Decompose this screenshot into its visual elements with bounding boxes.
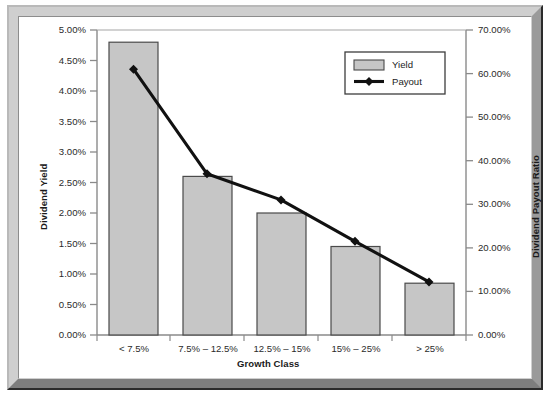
right-tick-label-2: 50.00% xyxy=(478,111,526,122)
right-tick-label-7: 0.00% xyxy=(478,329,526,340)
category-label-3: 15% – 25% xyxy=(319,343,393,354)
right-tick-label-0: 70.00% xyxy=(478,24,526,35)
bar-yield-3 xyxy=(331,247,380,336)
bar-yield-1 xyxy=(183,176,232,335)
category-label-1: 7.5% – 12.5% xyxy=(171,343,245,354)
left-tick-label-3: 3.50% xyxy=(40,116,86,127)
category-label-0: < 7.5% xyxy=(97,343,171,354)
left-tick-label-0: 5.00% xyxy=(40,24,86,35)
category-label-2: 12.5% – 15% xyxy=(245,343,319,354)
left-tick-label-7: 1.50% xyxy=(40,238,86,249)
right-tick-label-1: 60.00% xyxy=(478,68,526,79)
category-ticks xyxy=(97,335,466,341)
right-tick-label-6: 10.00% xyxy=(478,285,526,296)
legend-swatch-yield xyxy=(354,60,384,70)
bar-yield-0 xyxy=(109,42,158,335)
left-tick-label-2: 4.00% xyxy=(40,85,86,96)
y-axis-title-right: Dividend Payout Ratio xyxy=(530,155,541,258)
y-axis-title-left: Dividend Yield xyxy=(38,164,49,230)
right-axis-ticks xyxy=(466,30,473,335)
category-label-4: > 25% xyxy=(393,343,467,354)
left-tick-label-1: 4.50% xyxy=(40,55,86,66)
left-tick-label-10: 0.00% xyxy=(40,329,86,340)
left-axis-ticks xyxy=(90,30,97,335)
chart-screenshot: 5.00% 4.50% 4.00% 3.50% 3.00% 2.50% 2.00… xyxy=(0,0,551,398)
bar-yield-2 xyxy=(257,213,306,335)
legend-label-payout: Payout xyxy=(392,76,422,87)
right-tick-label-3: 40.00% xyxy=(478,155,526,166)
chart-plot-container: 5.00% 4.50% 4.00% 3.50% 3.00% 2.50% 2.00… xyxy=(0,0,551,398)
left-tick-label-8: 1.00% xyxy=(40,268,86,279)
bar-yield-4 xyxy=(405,283,454,335)
left-tick-label-9: 0.50% xyxy=(40,299,86,310)
right-tick-label-5: 20.00% xyxy=(478,242,526,253)
x-axis-title: Growth Class xyxy=(237,358,299,369)
legend-label-yield: Yield xyxy=(392,59,413,70)
left-tick-label-4: 3.00% xyxy=(40,146,86,157)
right-tick-label-4: 30.00% xyxy=(478,198,526,209)
